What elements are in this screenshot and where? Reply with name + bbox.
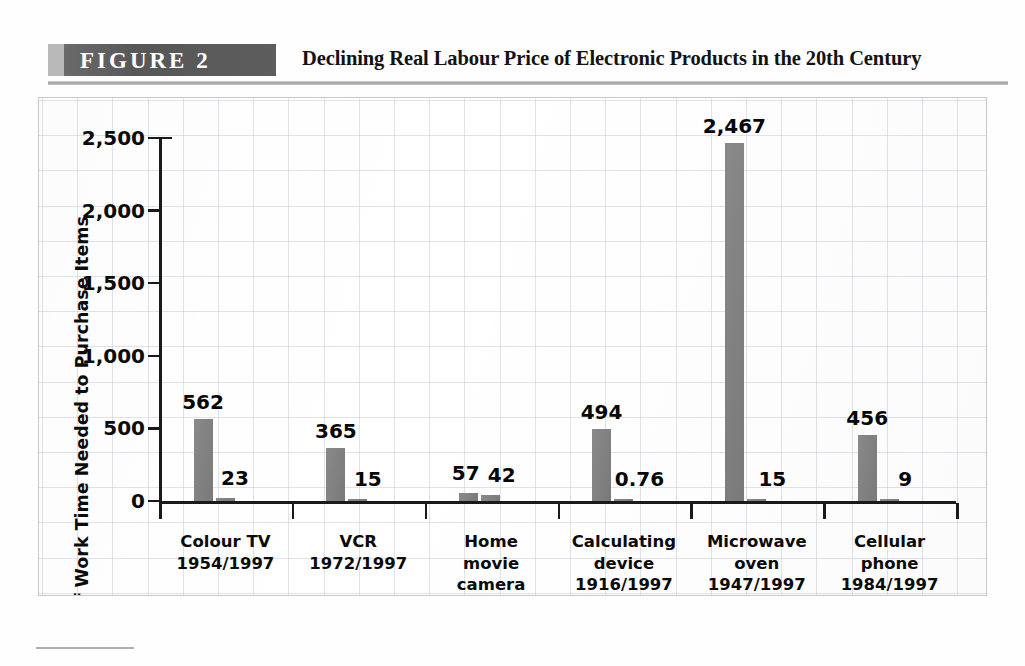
bar-value-label: 0.76 [615,467,664,491]
category-separator-tick [690,503,693,519]
bar [459,493,478,501]
y-axis-tick-label: 2,000 [82,199,145,223]
footnote-divider [36,647,134,649]
category-separator-tick [159,503,162,519]
bar-value-label: 23 [221,466,249,490]
bar-value-label: 42 [488,463,516,487]
bar-value-label: 456 [846,406,888,430]
bar-value-label: 15 [758,467,786,491]
y-axis-tick [148,427,161,430]
figure-number-banner: FIGURE 2 [48,44,276,76]
y-axis-tick [148,355,161,358]
y-axis-tick [148,500,161,503]
bar-value-label: 562 [182,390,224,414]
bar [348,499,367,501]
bar-value-label: 57 [452,461,480,485]
x-axis-category-label: Colour TV 1954/1997 [176,531,274,574]
y-axis-tick-label: 1,000 [82,344,145,368]
bar-value-label: 15 [354,467,382,491]
figure-number-label: FIGURE 2 [80,48,211,74]
y-axis-tick [148,209,161,212]
bar-value-label: 494 [581,400,623,424]
y-axis-tick-label: 2,500 [82,126,145,150]
x-axis-category-label: Calculating device 1916/1997 [572,531,676,596]
y-axis-tick-label: 500 [103,416,145,440]
category-separator-tick [558,503,561,519]
bar [614,499,633,501]
y-axis-tick [148,282,161,285]
category-separator-tick [292,503,295,519]
y-axis-tick-label: 1,500 [82,271,145,295]
x-axis-category-label: Home movie camera 1960/1997 [442,531,540,596]
chart-container: Hours of Work Time Needed to Purchase It… [38,97,987,596]
y-axis-line [159,139,162,502]
bar-value-label: 9 [898,467,912,491]
bar-value-label: 365 [315,419,357,443]
bar [858,435,877,501]
category-separator-tick [823,503,826,519]
bar-value-label: 2,467 [703,114,766,138]
plot-area: 05001,0001,5002,0002,5005622336515574249… [159,139,976,543]
category-separator-tick [425,503,428,519]
y-axis-top-cap [159,137,172,140]
bar [216,498,235,501]
x-axis-category-label: Microwave oven 1947/1997 [707,531,807,596]
y-axis-tick-label: 0 [131,489,145,513]
figure-header: FIGURE 2 Declining Real Labour Price of … [48,44,1008,90]
category-separator-tick [956,503,959,519]
bar [194,419,213,501]
figure-title: Declining Real Labour Price of Electroni… [302,47,921,70]
bar [880,499,899,501]
header-divider [48,81,1008,85]
bar [592,429,611,501]
x-axis-category-label: VCR 1972/1997 [309,531,407,574]
bar [747,499,766,501]
bar [725,143,744,501]
bar [481,495,500,501]
x-axis-category-label: Cellular phone 1984/1997 [841,531,939,596]
bar [326,448,345,501]
